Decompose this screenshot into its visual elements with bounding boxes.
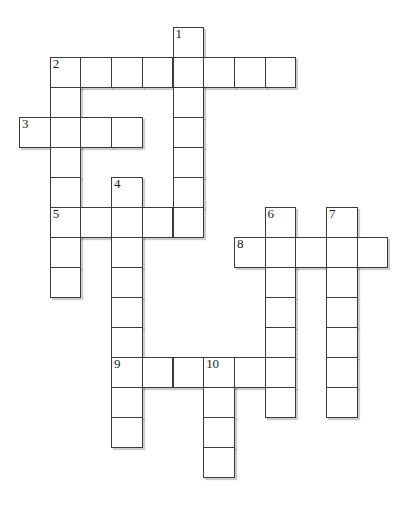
crossword-cell[interactable] [173, 87, 205, 118]
crossword-cell-letter [266, 238, 296, 267]
crossword-cell[interactable] [173, 177, 205, 208]
crossword-cell[interactable] [111, 297, 143, 328]
crossword-cell-1[interactable]: 1 [173, 27, 205, 58]
crossword-cell[interactable] [265, 57, 297, 88]
crossword-cell-letter [266, 328, 296, 357]
crossword-cell-3[interactable]: 3 [19, 117, 51, 148]
crossword-cell[interactable] [234, 57, 266, 88]
crossword-cell[interactable] [173, 207, 205, 238]
crossword-cell[interactable] [203, 447, 235, 478]
crossword-cell[interactable] [173, 147, 205, 178]
clue-number-7: 7 [329, 207, 335, 221]
crossword-cell[interactable] [203, 417, 235, 448]
crossword-cell[interactable] [50, 117, 82, 148]
crossword-cell-letter [327, 268, 357, 297]
crossword-cell-letter [143, 208, 173, 237]
crossword-cell[interactable] [142, 57, 174, 88]
crossword-cell-2[interactable]: 2 [50, 57, 82, 88]
crossword-cell-letter [112, 268, 142, 297]
crossword-cell[interactable] [326, 297, 358, 328]
crossword-cell[interactable] [111, 57, 143, 88]
crossword-cell-letter [174, 88, 204, 117]
crossword-cell-letter [112, 118, 142, 147]
crossword-cell-letter [51, 148, 81, 177]
crossword-cell-10[interactable]: 10 [203, 357, 235, 388]
crossword-cell[interactable] [265, 297, 297, 328]
crossword-cell-letter [327, 358, 357, 387]
crossword-cell[interactable] [265, 267, 297, 298]
crossword-cell-letter [51, 118, 81, 147]
crossword-cell-letter [174, 58, 204, 87]
crossword-cell[interactable] [50, 87, 82, 118]
crossword-cell[interactable] [50, 267, 82, 298]
clue-number-4: 4 [114, 177, 120, 191]
crossword-cell[interactable] [50, 237, 82, 268]
crossword-cell[interactable] [80, 207, 112, 238]
crossword-cell-letter [112, 388, 142, 417]
crossword-cell-letter [327, 298, 357, 327]
crossword-cell[interactable] [111, 417, 143, 448]
crossword-cell-letter [112, 238, 142, 267]
crossword-cell[interactable] [234, 357, 266, 388]
crossword-cell-letter [174, 178, 204, 207]
crossword-cell-letter [327, 238, 357, 267]
crossword-cell[interactable] [265, 237, 297, 268]
crossword-cell-letter [174, 148, 204, 177]
clue-number-8: 8 [237, 237, 243, 251]
crossword-cell-letter [143, 358, 173, 387]
clue-number-10: 10 [206, 357, 218, 371]
crossword-cell-letter [51, 268, 81, 297]
crossword-cell[interactable] [80, 57, 112, 88]
crossword-cell-letter [81, 58, 111, 87]
crossword-cell[interactable] [203, 57, 235, 88]
crossword-cell-letter [174, 358, 204, 387]
crossword-cell[interactable] [326, 237, 358, 268]
crossword-cell[interactable] [111, 117, 143, 148]
crossword-cell[interactable] [111, 237, 143, 268]
crossword-cell[interactable] [265, 327, 297, 358]
crossword-cell-4[interactable]: 4 [111, 177, 143, 208]
crossword-grid[interactable]: 12345678910 [0, 0, 411, 521]
crossword-cell-8[interactable]: 8 [234, 237, 266, 268]
crossword-cell[interactable] [265, 387, 297, 418]
crossword-cell-letter [174, 208, 204, 237]
crossword-cell[interactable] [326, 357, 358, 388]
crossword-cell[interactable] [142, 207, 174, 238]
crossword-cell[interactable] [173, 357, 205, 388]
crossword-cell[interactable] [295, 237, 327, 268]
crossword-cell[interactable] [265, 357, 297, 388]
clue-number-1: 1 [176, 27, 182, 41]
crossword-cell-letter [51, 178, 81, 207]
crossword-cell-letter [112, 298, 142, 327]
crossword-cell[interactable] [173, 117, 205, 148]
crossword-cell-7[interactable]: 7 [326, 207, 358, 238]
crossword-cell[interactable] [203, 387, 235, 418]
crossword-cell-letter [327, 328, 357, 357]
crossword-cell-letter [81, 208, 111, 237]
crossword-cell-letter [266, 268, 296, 297]
crossword-cell[interactable] [326, 387, 358, 418]
crossword-cell[interactable] [326, 327, 358, 358]
crossword-cell[interactable] [111, 267, 143, 298]
crossword-cell[interactable] [142, 357, 174, 388]
crossword-cell-letter [296, 238, 326, 267]
crossword-cell-letter [327, 388, 357, 417]
crossword-cell[interactable] [111, 207, 143, 238]
crossword-cell[interactable] [111, 327, 143, 358]
crossword-cell-letter [204, 448, 234, 477]
crossword-cell-letter [266, 298, 296, 327]
crossword-cell[interactable] [173, 57, 205, 88]
crossword-cell[interactable] [50, 177, 82, 208]
crossword-cell[interactable] [80, 117, 112, 148]
crossword-cell[interactable] [326, 267, 358, 298]
clue-number-5: 5 [53, 207, 59, 221]
crossword-cell[interactable] [50, 147, 82, 178]
crossword-cell-letter [51, 88, 81, 117]
crossword-cell[interactable] [357, 237, 389, 268]
crossword-cell-6[interactable]: 6 [265, 207, 297, 238]
crossword-cell-9[interactable]: 9 [111, 357, 143, 388]
crossword-cell[interactable] [111, 387, 143, 418]
clue-number-6: 6 [268, 207, 274, 221]
crossword-cell-5[interactable]: 5 [50, 207, 82, 238]
clue-number-9: 9 [114, 357, 120, 371]
